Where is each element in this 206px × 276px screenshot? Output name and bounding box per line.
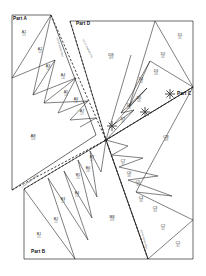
piece-label-d7: D74/7 [121,118,125,124]
piece-label-c2: C23/2 [161,225,165,231]
piece-sub-number: 4/2 [161,56,165,59]
registration-marks [105,139,108,142]
piece-label-b4: B42/4 [75,192,79,198]
piece-sub-number: 4/5 [137,100,141,103]
piece-label-c8: C83/8 [163,135,168,143]
part-c-outline [106,87,193,259]
piece-sub-number: 3/5 [136,184,140,187]
piece-sub-number: 1/6 [74,101,78,104]
piece-sub-number: 2/5 [76,177,80,180]
asterisk-icon-2 [140,107,150,117]
piece-sub-number: 4/8 [108,58,113,61]
piece-label-c6: C63/6 [127,172,131,178]
piece-label-c3: C33/3 [153,207,157,213]
piece-label-d6: D64/6 [127,104,131,110]
piece-sub-number: 2/4 [75,195,79,198]
piece-label-c5: C53/5 [136,181,140,187]
piece-label-b2: B22/2 [54,218,58,224]
piece-sub-number: 1/4 [61,77,65,80]
piece-sub-number: 1/3 [46,68,50,71]
piece-sub-number: 3/6 [127,175,131,178]
piece-label-b7: B72/7 [90,156,94,162]
piece-label-d5: D54/5 [137,97,141,103]
piece-label-a6: A61/6 [74,98,78,104]
piece-sub-number: 2/2 [54,221,58,224]
piece-sub-number: 2/3 [61,201,65,204]
asterisk-marks [107,89,175,131]
piece-sub-number: 4/3 [154,73,158,76]
piece-label-a2: A21/2 [38,48,42,54]
piece-label-c1: C13/1 [176,242,180,248]
piece-sub-number: 3/4 [139,200,143,203]
piece-sub-number: 1/1 [22,34,26,37]
piece-label-c7: C73/7 [121,160,125,166]
asterisk-icon-3 [165,89,175,99]
piece-label-b3: B32/3 [61,198,65,204]
piece-label-a4: A41/4 [61,74,65,80]
part-label-c: Part C [177,92,191,97]
piece-sub-number: 3/8 [163,140,168,143]
piece-sub-number: 1/2 [38,51,42,54]
piece-sub-number: 3/3 [153,210,157,213]
piece-label-a8: A81/8 [30,134,35,142]
piece-sub-number: 1/8 [30,139,35,142]
piece-label-a3: A31/3 [46,65,50,71]
piece-sub-number: 3/1 [176,245,180,248]
part-b-outline [24,140,148,259]
piece-sub-number: 2/8 [109,220,114,223]
diagram-canvas: Part A Part D Part C Part B A11/1A21/2A3… [0,0,206,276]
piece-sub-number: 3/7 [121,163,125,166]
piece-label-d4: D44/4 [139,78,143,84]
part-c-seams [106,87,193,259]
piece-label-d1: D14/1 [178,34,182,40]
piece-label-a5: A51/5 [64,91,68,97]
piece-label-c4: C43/4 [139,197,143,203]
part-label-d: Part D [76,22,90,27]
piece-sub-number: 1/7 [80,113,84,116]
piece-label-d2: D24/2 [161,53,165,59]
piece-label-d3: D34/3 [154,70,158,76]
asterisk-icon-1 [107,121,117,131]
piece-sub-number: 4/1 [178,37,182,40]
piece-label-a1: A11/1 [22,31,26,37]
piece-sub-number: 3/2 [161,228,165,231]
piece-label-b8: B82/8 [109,215,114,223]
piece-label-b5: B52/5 [76,174,80,180]
piece-sub-number: 1/5 [64,94,68,97]
piece-label-d8: D84/8 [108,53,113,61]
piece-sub-number: 2/1 [37,236,41,239]
part-label-a: Part A [13,17,27,22]
center-point [105,139,108,142]
piece-label-b1: B12/1 [37,233,41,239]
piece-sub-number: 4/6 [127,107,131,110]
piece-sub-number: 4/4 [139,81,143,84]
piece-label-b6: B62/6 [86,167,90,173]
part-label-b: Part B [31,250,45,255]
piece-sub-number: 4/7 [121,121,125,124]
piece-label-a7: A71/7 [80,110,84,116]
piece-sub-number: 2/7 [90,159,94,162]
piece-sub-number: 2/6 [86,170,90,173]
